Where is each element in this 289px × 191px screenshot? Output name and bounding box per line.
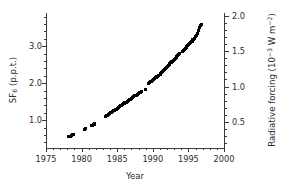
data-point-marker <box>93 122 96 125</box>
x-axis-tick-label: 2000 <box>214 155 235 163</box>
y-left-title-main: SF <box>8 93 18 103</box>
y-right-minor-tick <box>225 72 227 73</box>
y-right-tick-label: 1.5 <box>232 47 245 55</box>
x-axis-minor-tick <box>203 148 204 150</box>
y-right-minor-tick <box>225 108 227 109</box>
y-left-tick-label: 3.0 <box>20 42 42 50</box>
x-axis-tick-label: 1980 <box>71 155 92 163</box>
data-point-marker <box>140 90 143 93</box>
plot-data-area <box>46 13 225 148</box>
bottom-axis-line <box>46 148 225 149</box>
x-axis-minor-tick <box>146 148 147 150</box>
x-axis-title: Year <box>126 172 144 181</box>
x-axis-minor-tick <box>160 148 161 150</box>
y-right-tick-label: 0.5 <box>232 118 245 126</box>
x-axis-minor-tick <box>96 148 97 150</box>
y-right-minor-tick <box>225 143 227 144</box>
y-axis-right-title: Radiative forcing (10−3 W m−2) <box>267 13 276 147</box>
x-axis-minor-tick <box>124 148 125 150</box>
x-axis-minor-tick <box>174 148 175 150</box>
y-right-title-exponent-1: −3 <box>266 48 273 57</box>
y-right-major-tick <box>225 122 229 123</box>
y-right-tick-label: 2.0 <box>232 12 245 20</box>
x-axis-minor-tick <box>89 148 90 150</box>
x-axis-tick-label: 1975 <box>36 155 57 163</box>
data-point-marker <box>200 23 203 26</box>
y-axis-left-title: SF6 (p.p.t.) <box>9 57 18 103</box>
x-axis-minor-tick <box>210 148 211 150</box>
x-axis-major-tick <box>117 148 118 152</box>
y-right-minor-tick <box>225 79 227 80</box>
x-axis-major-tick <box>224 148 225 152</box>
x-axis-tick-label: 1995 <box>178 155 199 163</box>
x-axis-major-tick <box>188 148 189 152</box>
x-axis-minor-tick <box>139 148 140 150</box>
y-right-minor-tick <box>225 65 227 66</box>
y-right-minor-tick <box>225 94 227 95</box>
x-axis-minor-tick <box>181 148 182 150</box>
x-axis-minor-tick <box>217 148 218 150</box>
y-right-minor-tick <box>225 136 227 137</box>
y-right-minor-tick <box>225 37 227 38</box>
y-left-tick-label: 1.0 <box>20 116 42 124</box>
x-axis-minor-tick <box>60 148 61 150</box>
y-right-title-exponent-2: −2 <box>266 17 273 26</box>
x-axis-minor-tick <box>110 148 111 150</box>
data-point-marker <box>144 88 147 91</box>
y-right-tick-label: 1.0 <box>232 82 245 90</box>
data-point-marker <box>197 29 200 32</box>
x-axis-minor-tick <box>74 148 75 150</box>
x-axis-tick-label: 1990 <box>142 155 163 163</box>
y-left-tick-label: 2.0 <box>20 79 42 87</box>
data-point-marker <box>72 133 75 136</box>
y-right-major-tick <box>225 51 229 52</box>
x-axis-minor-tick <box>67 148 68 150</box>
y-right-minor-tick <box>225 30 227 31</box>
x-axis-minor-tick <box>196 148 197 150</box>
y-right-major-tick <box>225 87 229 88</box>
y-right-minor-tick <box>225 58 227 59</box>
y-right-title-mid: W m <box>267 26 277 48</box>
y-right-minor-tick <box>225 23 227 24</box>
y-right-major-tick <box>225 16 229 17</box>
y-right-minor-tick <box>225 129 227 130</box>
y-right-minor-tick <box>225 44 227 45</box>
x-axis-minor-tick <box>103 148 104 150</box>
y-right-title-main: Radiative forcing (10 <box>267 57 277 147</box>
x-axis-tick-label: 1985 <box>107 155 128 163</box>
y-left-title-units: (p.p.t.) <box>8 57 18 89</box>
x-axis-major-tick <box>153 148 154 152</box>
y-right-minor-tick <box>225 101 227 102</box>
sf6-concentration-chart: 1975198019851990199520001.02.03.00.51.01… <box>0 0 289 191</box>
x-axis-major-tick <box>46 148 47 152</box>
x-axis-minor-tick <box>167 148 168 150</box>
x-axis-major-tick <box>82 148 83 152</box>
data-point-marker <box>84 127 87 130</box>
x-axis-minor-tick <box>53 148 54 150</box>
x-axis-minor-tick <box>131 148 132 150</box>
y-left-title-subscript: 6 <box>11 89 18 93</box>
y-right-minor-tick <box>225 115 227 116</box>
y-right-title-close-paren: ) <box>267 13 277 16</box>
